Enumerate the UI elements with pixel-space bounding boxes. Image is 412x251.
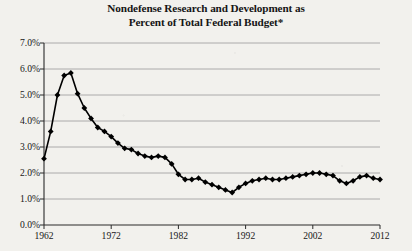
data-point-marker bbox=[323, 171, 329, 177]
x-axis-tick-label: 1962 bbox=[24, 231, 64, 241]
y-axis-tick-label: 0.0% bbox=[2, 220, 40, 230]
data-point-marker bbox=[270, 177, 276, 183]
data-point-marker bbox=[68, 70, 74, 76]
data-point-marker bbox=[189, 177, 195, 183]
plot-area: 7.0%6.0%5.0%4.0%3.0%2.0%1.0%0.0% 1962197… bbox=[0, 0, 412, 251]
y-axis-tick-label: 7.0% bbox=[2, 38, 40, 48]
data-point-marker bbox=[155, 153, 161, 159]
x-axis-tick-label: 1972 bbox=[91, 231, 131, 241]
data-point-marker bbox=[290, 174, 296, 180]
data-line bbox=[44, 73, 380, 193]
data-point-marker bbox=[216, 184, 222, 190]
data-point-marker bbox=[377, 177, 383, 183]
chart-figure: Nondefense Research and Development as P… bbox=[0, 0, 412, 251]
data-point-marker bbox=[256, 177, 262, 183]
data-point-marker bbox=[249, 178, 255, 184]
data-point-marker bbox=[223, 187, 229, 193]
data-point-marker bbox=[263, 175, 269, 181]
data-point-marker bbox=[370, 175, 376, 181]
y-axis-tick-label: 3.0% bbox=[2, 142, 40, 152]
data-point-marker bbox=[55, 92, 61, 98]
data-point-marker bbox=[149, 155, 155, 161]
data-point-marker bbox=[142, 153, 148, 159]
data-markers bbox=[41, 70, 383, 195]
data-point-marker bbox=[75, 91, 81, 97]
data-point-marker bbox=[61, 73, 67, 79]
x-axis-tick-label: 1992 bbox=[226, 231, 266, 241]
data-point-marker bbox=[283, 175, 289, 181]
y-axis-tick-label: 6.0% bbox=[2, 64, 40, 74]
x-axis-ticks bbox=[44, 225, 380, 229]
data-point-marker bbox=[296, 173, 302, 179]
data-point-marker bbox=[303, 171, 309, 177]
y-axis-tick-label: 1.0% bbox=[2, 194, 40, 204]
x-axis-tick-label: 1982 bbox=[158, 231, 198, 241]
x-axis-tick-label: 2012 bbox=[360, 231, 400, 241]
data-point-marker bbox=[344, 181, 350, 187]
data-point-marker bbox=[364, 173, 370, 179]
data-point-marker bbox=[48, 129, 54, 135]
y-axis-tick-label: 4.0% bbox=[2, 116, 40, 126]
data-point-marker bbox=[310, 170, 316, 176]
x-axis-tick-label: 2002 bbox=[293, 231, 333, 241]
chart-canvas bbox=[0, 0, 412, 251]
y-axis-ticks bbox=[40, 43, 44, 225]
y-axis-tick-label: 5.0% bbox=[2, 90, 40, 100]
data-point-marker bbox=[41, 156, 47, 162]
data-point-marker bbox=[276, 177, 282, 183]
data-point-marker bbox=[317, 170, 323, 176]
data-point-marker bbox=[209, 182, 215, 188]
y-axis-tick-label: 2.0% bbox=[2, 168, 40, 178]
